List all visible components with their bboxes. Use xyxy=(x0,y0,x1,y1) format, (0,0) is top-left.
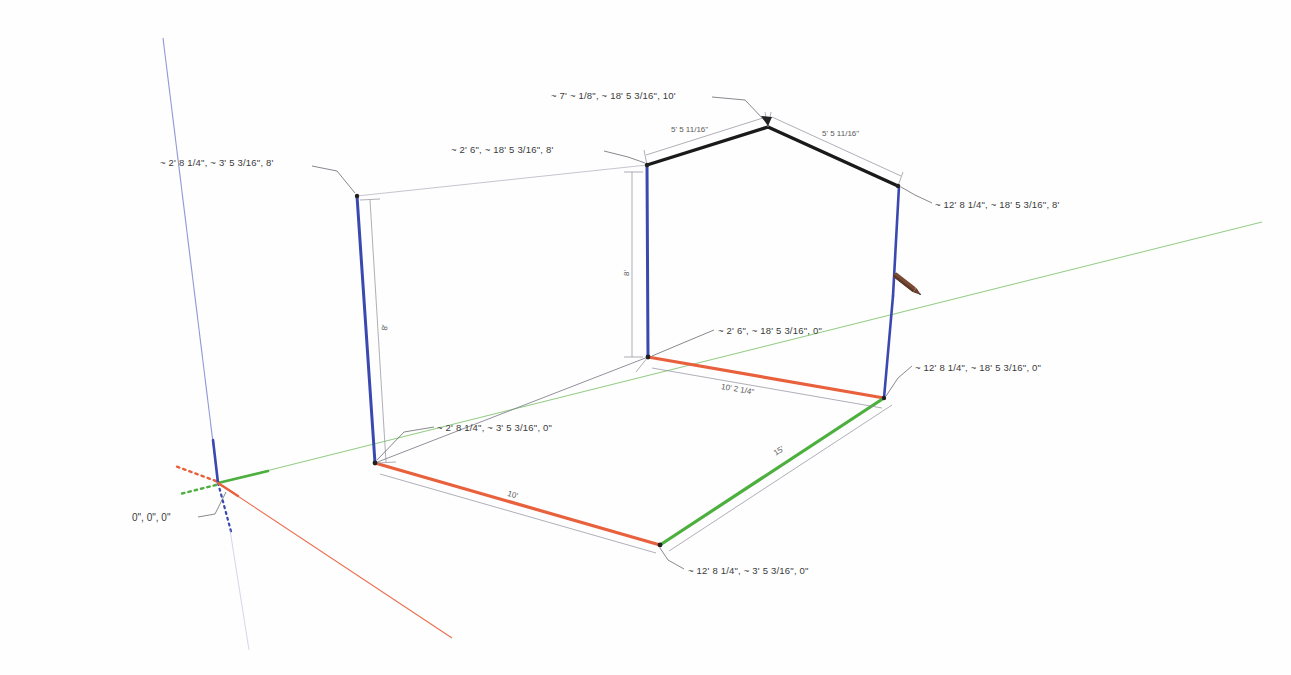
dim-left-wall-tick-top xyxy=(360,199,380,200)
floor-edge-front-red xyxy=(375,463,660,545)
leader-dot-front-floor xyxy=(658,543,663,548)
coord-tooltip-left-wall-top: ~ 2' 8 1/4", ~ 3' 5 3/16", 8' xyxy=(160,157,274,168)
pencil-body-shade xyxy=(893,275,915,293)
green-axis-positive xyxy=(218,471,268,483)
leader-right-wall-top xyxy=(901,187,932,203)
leader-back-wall-base xyxy=(652,330,714,356)
leader-dot-back-base xyxy=(646,355,651,360)
red-axis-negative xyxy=(175,466,216,481)
hidden-edge-left-wall-top xyxy=(357,165,647,196)
leader-dot-left-wall-top xyxy=(355,194,359,198)
coord-tooltip-right-floor-corner: ~ 12' 8 1/4", ~ 18' 5 3/16", 0" xyxy=(915,362,1041,373)
dimension-back-wall-height: 8' xyxy=(622,270,631,276)
model-geometry-layer xyxy=(0,0,1291,675)
coord-tooltip-back-wall-base: ~ 2' 6", ~ 18' 5 3/16", 0" xyxy=(718,325,822,336)
leader-front-floor xyxy=(660,548,684,569)
coord-tooltip-front-floor-corner: ~ 12' 8 1/4", ~ 3' 5 3/16", 0" xyxy=(688,565,809,576)
leader-dot-right-wall-top xyxy=(896,184,900,188)
leader-back-wall-top xyxy=(604,151,645,163)
leader-dot-left-floor xyxy=(373,461,378,466)
red-axis-positive xyxy=(218,483,452,638)
dim-floor-back-line xyxy=(652,368,882,408)
dim-roof-left-line xyxy=(646,117,766,155)
dim-roof-right-ext2 xyxy=(898,172,903,186)
sketchup-viewport[interactable]: ~ 2' 8 1/4", ~ 3' 5 3/16", 8' ~ 7' ~ 1/8… xyxy=(0,0,1291,675)
floor-edge-left-thin xyxy=(375,357,648,463)
leader-ridge-apex xyxy=(712,97,766,122)
origin-label: 0", 0", 0" xyxy=(132,512,170,523)
leader-right-floor xyxy=(886,366,912,396)
wall-edge-right xyxy=(884,296,893,398)
coord-tooltip-left-floor-corner: ~ 2' 8 1/4", ~ 3' 5 3/16", 0" xyxy=(437,422,552,433)
leader-left-wall-top xyxy=(312,166,355,193)
coord-tooltip-ridge-apex: ~ 7' ~ 1/8", ~ 18' 5 3/16", 10' xyxy=(551,90,676,101)
dim-floor-side-line xyxy=(669,405,892,551)
leader-dot-back-wall-top xyxy=(645,163,649,167)
dim-left-wall-tick-bot xyxy=(377,462,396,463)
dim-roof-right-line xyxy=(772,117,901,176)
leader-arrow-ridge xyxy=(761,116,772,126)
floor-edge-back-red xyxy=(648,357,884,398)
green-axis-negative xyxy=(180,485,216,494)
coord-tooltip-right-wall-top: ~ 12' 8 1/4", ~ 18' 5 3/16", 8' xyxy=(935,199,1060,210)
coord-tooltip-back-wall-top: ~ 2' 6", ~ 18' 5 3/16", 8' xyxy=(451,144,553,155)
dim-floor-front-line xyxy=(380,474,656,553)
blue-axis-origin-stub xyxy=(213,440,218,483)
dimension-left-wall-height: 8' xyxy=(380,324,390,331)
pencil-cursor[interactable] xyxy=(893,272,923,297)
dimension-roof-left-slope: 5' 5 11/16" xyxy=(671,125,708,134)
blue-axis-negative-faint xyxy=(230,530,249,650)
floor-edge-side-green xyxy=(660,398,884,545)
dimension-roof-right-slope: 5' 5 11/16" xyxy=(822,129,859,138)
leader-dot-right-floor xyxy=(882,396,886,400)
blue-axis-positive xyxy=(163,38,218,483)
wall-edge-back xyxy=(647,165,648,357)
